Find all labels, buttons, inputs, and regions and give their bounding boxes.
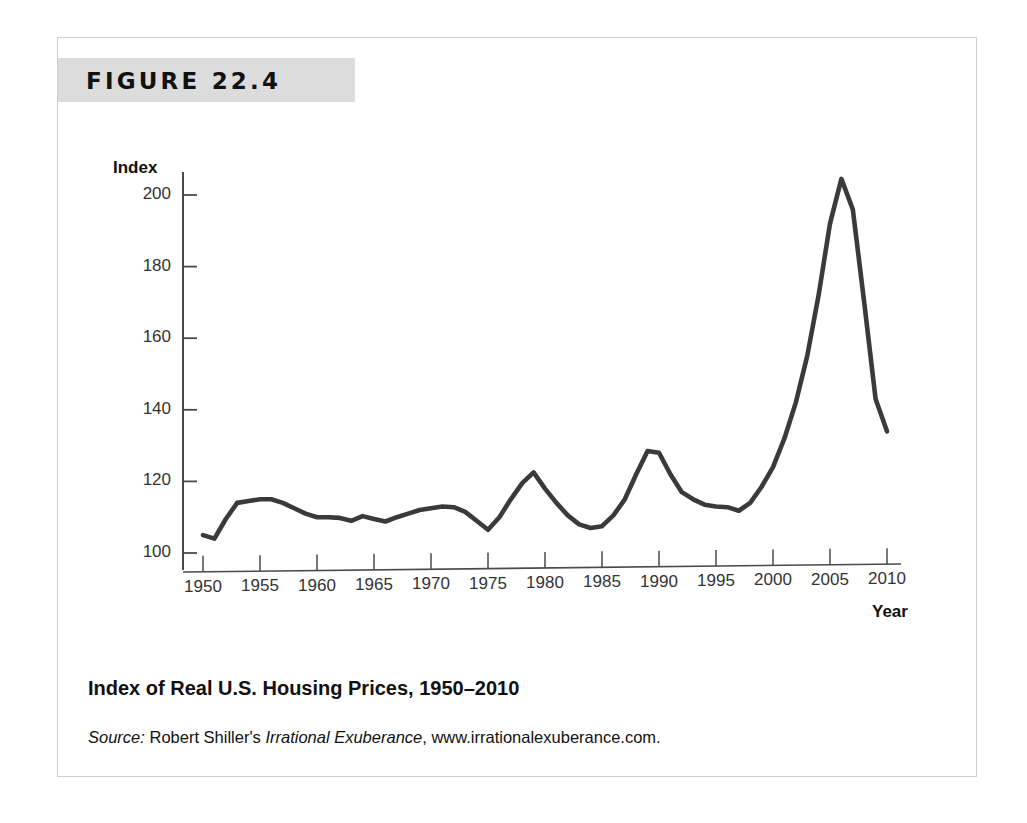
x-tick-1970: 1970 bbox=[404, 574, 458, 594]
source-url: , www.irrationalexuberance.com. bbox=[422, 728, 660, 746]
y-tick-140: 140 bbox=[119, 399, 171, 419]
x-tick-2000: 2000 bbox=[746, 570, 800, 590]
x-tick-1960: 1960 bbox=[290, 576, 344, 596]
x-axis-title: Year bbox=[872, 602, 908, 622]
x-tick-1950: 1950 bbox=[176, 577, 230, 597]
figure-source-line: Source: Robert Shiller's Irrational Exub… bbox=[88, 728, 661, 747]
y-tick-180: 180 bbox=[119, 256, 171, 276]
figure-page: FIGURE 22.4 Index Year 10012014016018020… bbox=[0, 0, 1027, 823]
x-tick-1995: 1995 bbox=[689, 571, 743, 591]
y-tick-120: 120 bbox=[119, 470, 171, 490]
x-tick-1980: 1980 bbox=[518, 573, 572, 593]
figure-caption-title: Index of Real U.S. Housing Prices, 1950–… bbox=[88, 677, 519, 700]
x-tick-1955: 1955 bbox=[233, 576, 287, 596]
x-tick-1990: 1990 bbox=[632, 572, 686, 592]
figure-number-label: FIGURE 22.4 bbox=[86, 68, 281, 94]
y-tick-160: 160 bbox=[119, 327, 171, 347]
source-author: Robert Shiller's bbox=[145, 728, 266, 746]
y-axis-title: Index bbox=[113, 158, 157, 178]
y-tick-100: 100 bbox=[119, 542, 171, 562]
source-work-title: Irrational Exuberance bbox=[265, 728, 422, 746]
x-tick-1975: 1975 bbox=[461, 574, 515, 594]
x-tick-2010: 2010 bbox=[860, 569, 914, 589]
x-tick-2005: 2005 bbox=[803, 570, 857, 590]
x-tick-1965: 1965 bbox=[347, 575, 401, 595]
y-tick-200: 200 bbox=[119, 184, 171, 204]
source-prefix: Source: bbox=[88, 728, 145, 746]
figure-outer-frame bbox=[57, 37, 977, 777]
x-tick-1985: 1985 bbox=[575, 572, 629, 592]
